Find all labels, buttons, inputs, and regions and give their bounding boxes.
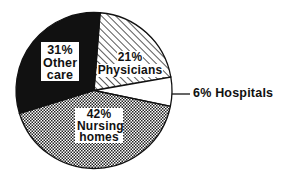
label-other-care: 31% Other care xyxy=(41,42,79,81)
physicians-name: Physicians xyxy=(97,64,164,77)
other-care-pct: 31% xyxy=(43,44,77,57)
label-physicians: 21% Physicians xyxy=(93,51,167,77)
label-nursing-homes: 42% Nursing homes xyxy=(75,108,123,143)
label-hospitals: 6% Hospitals xyxy=(193,87,273,99)
pie-slices xyxy=(16,12,172,168)
nursing-homes-name-2: homes xyxy=(77,132,121,144)
other-care-name-2: care xyxy=(43,69,77,82)
